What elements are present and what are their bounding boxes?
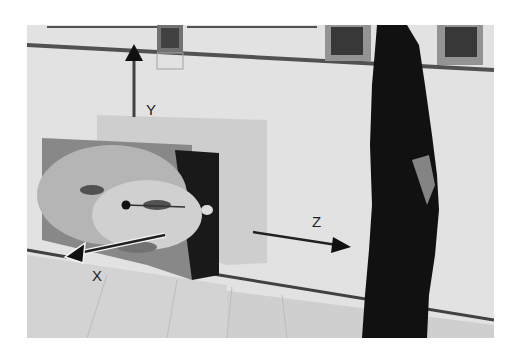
x-axis-label: X	[92, 268, 102, 283]
z-axis-label: Z	[312, 214, 321, 229]
scene-graphic	[27, 25, 494, 338]
y-axis-label: Y	[146, 102, 156, 117]
photo-figure	[27, 25, 494, 338]
